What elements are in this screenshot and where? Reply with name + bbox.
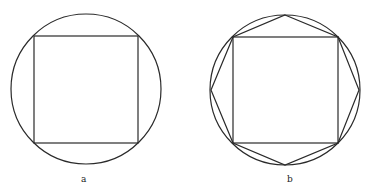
diagram-canvas: a b — [0, 0, 367, 192]
figure-label-b: b — [287, 174, 293, 184]
figure-b: b — [210, 15, 360, 184]
inscribed-square-a — [34, 36, 138, 143]
figure-a: a — [11, 14, 161, 184]
figure-label-a: a — [81, 174, 87, 184]
inscribed-square-b — [233, 37, 338, 143]
